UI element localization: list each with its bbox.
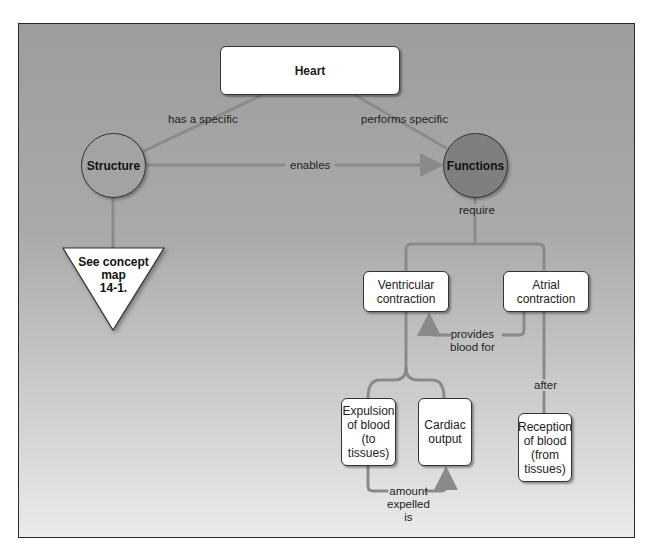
heart-node: Heart (220, 46, 400, 95)
cardiac-output-node: Cardiac output (418, 398, 472, 466)
link-has-a-specific: has a specific (168, 113, 238, 126)
functions-label: Functions (447, 159, 504, 173)
structure-label: Structure (87, 159, 140, 173)
link-after: after (534, 379, 557, 392)
see-concept-map-text: See concept map 14-1. (63, 256, 164, 295)
link-enables: enables (290, 159, 330, 172)
structure-node: Structure (81, 133, 146, 198)
link-provides-blood-for: provides blood for (450, 328, 495, 354)
link-performs-specific: performs specific (361, 113, 448, 126)
ventricular-contraction-node: Ventricular contraction (363, 271, 449, 312)
expulsion-node: Expulsion of blood (to tissues) (341, 398, 396, 466)
heart-label: Heart (295, 64, 326, 78)
reception-node: Reception of blood (from tissues) (518, 413, 572, 482)
link-amount-expelled-is: amount expelled is (387, 485, 430, 524)
atrial-contraction-node: Atrial contraction (503, 271, 589, 312)
functions-node: Functions (443, 133, 508, 198)
link-require: require (459, 204, 495, 217)
